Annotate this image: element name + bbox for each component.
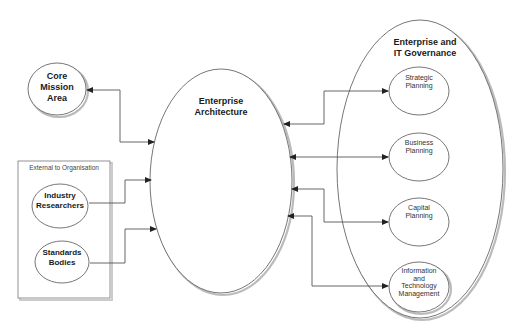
- business-planning-label: Business Planning: [389, 139, 449, 156]
- itm-label: Information and Technology Management: [385, 267, 453, 298]
- enterprise-architecture-label: Enterprise Architecture: [176, 96, 266, 118]
- core-mission-label: Core Mission Area: [27, 71, 87, 103]
- industry-researchers-label: Industry Researchers: [28, 191, 92, 210]
- governance-label: Enterprise and IT Governance: [370, 37, 480, 59]
- strategic-planning-label: Strategic Planning: [389, 74, 449, 91]
- external-group-label: External to Organisation: [18, 164, 110, 172]
- edge-core-mission-ea: [87, 90, 154, 142]
- capital-planning-label: Capital Planning: [389, 204, 449, 221]
- standards-bodies-label: Standards Bodies: [30, 248, 94, 267]
